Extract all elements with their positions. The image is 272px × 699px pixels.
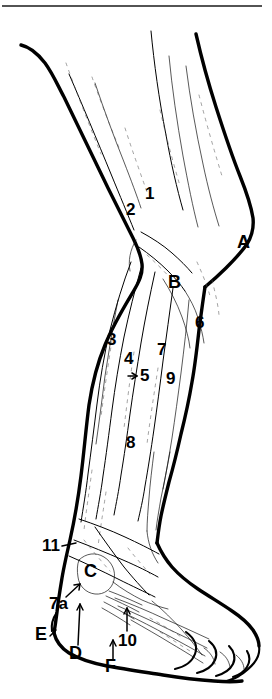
thigh-fascia-stipple-e <box>199 95 222 176</box>
knee-crease-a <box>141 232 192 273</box>
number-label-group: 1 2 3 4 5 6 7 8 9 10 11 7a <box>42 184 204 650</box>
dorsal-fascia-fan-c <box>104 602 134 619</box>
label-5: 5 <box>140 366 149 385</box>
label-B: B <box>168 272 181 292</box>
label-4: 4 <box>124 349 134 368</box>
leg-outline <box>21 34 259 682</box>
thigh-muscle-lines <box>66 31 222 230</box>
label-1: 1 <box>145 184 154 203</box>
iliotibial-band-line <box>186 66 219 226</box>
toe-outline-1 <box>222 646 259 682</box>
label-7: 7 <box>157 340 166 359</box>
label-7a: 7a <box>49 594 68 613</box>
anatomy-figure: 1 2 3 4 5 6 7 8 9 10 11 7a A B C D E F <box>0 0 272 699</box>
label-3: 3 <box>107 330 116 349</box>
achilles-medial-edge <box>147 452 154 531</box>
plantar-contour <box>54 633 242 682</box>
tibialis-anterior-border <box>81 262 131 522</box>
leader-label-D <box>77 604 83 645</box>
leg-anatomy-illustration: 1 2 3 4 5 6 7 8 9 10 11 7a A B C D E F <box>0 0 272 699</box>
label-E: E <box>35 624 47 644</box>
semitendinosus-line <box>169 56 198 227</box>
leader-lines <box>50 373 137 659</box>
biceps-femoris-line <box>151 31 183 210</box>
label-C: C <box>84 561 97 581</box>
label-10: 10 <box>118 631 137 650</box>
extensor-tendon-4 <box>131 620 203 663</box>
label-8: 8 <box>126 433 135 452</box>
leader-label-7a <box>66 584 80 597</box>
toe-joint-line-3 <box>236 655 244 669</box>
label-2: 2 <box>126 200 135 219</box>
toe-outline-4 <box>197 641 216 673</box>
dorsal-fascia-fan-a <box>109 591 142 605</box>
foot-dorsum-contour <box>157 543 259 646</box>
label-A: A <box>237 232 250 252</box>
label-F: F <box>105 656 116 676</box>
toe-outline-3 <box>216 646 234 676</box>
label-D: D <box>69 643 82 663</box>
toe-joint-line-2 <box>220 652 230 667</box>
thigh-fascia-stipple-c <box>125 128 147 192</box>
label-6: 6 <box>195 313 204 332</box>
foot-tendon-lines <box>102 591 244 669</box>
inferior-retinaculum-band <box>69 556 155 597</box>
retinaculum-oblique-band <box>95 527 149 595</box>
foot-stipple-b <box>160 632 190 651</box>
calf-muscle-lines <box>81 262 189 546</box>
peroneus-longus-border <box>114 272 155 515</box>
leader-label-10 <box>124 608 130 631</box>
vastus-line-a <box>69 74 134 230</box>
popliteal-stipple-c <box>212 280 219 315</box>
label-11: 11 <box>42 536 60 555</box>
ankle-stipple-b <box>128 548 150 574</box>
dorsal-fascia-fan-b <box>106 596 139 612</box>
toe-outline-2 <box>233 651 249 677</box>
label-9: 9 <box>166 369 175 388</box>
